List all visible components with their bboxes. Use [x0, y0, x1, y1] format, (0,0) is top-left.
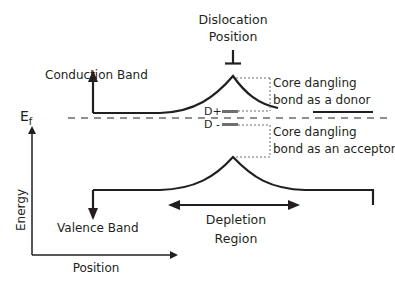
donor-bracket — [236, 78, 270, 111]
acceptor-bracket — [236, 125, 270, 157]
fermi-level-label: Ef — [20, 108, 33, 127]
donor-level-label: D+ — [204, 105, 222, 118]
acceptor-annotation-line1: Core dangling — [273, 125, 357, 139]
donor-annotation-line2: bond as a donor — [273, 93, 370, 107]
band-diagram: Dislocation Position Conduction Band Ef … — [0, 0, 395, 282]
dislocation-symbol-icon — [225, 50, 241, 64]
depletion-label-line2: Region — [215, 231, 258, 246]
acceptor-level-bar — [222, 123, 238, 126]
x-axis-label: Position — [73, 261, 120, 275]
depletion-label-line1: Depletion — [206, 212, 266, 227]
valence-band-label: Valence Band — [57, 221, 139, 235]
donor-annotation-line1: Core dangling — [273, 76, 357, 90]
acceptor-level-label: D - — [204, 118, 220, 131]
valence-band-curve — [93, 157, 373, 205]
y-axis-label: Energy — [14, 189, 28, 231]
dislocation-title-line1: Dislocation — [198, 12, 267, 27]
donor-level-bar — [222, 110, 238, 113]
conduction-band-label: Conduction Band — [45, 68, 148, 82]
acceptor-annotation-line2: bond as an acceptor — [273, 142, 395, 156]
dislocation-title-line2: Position — [209, 29, 258, 44]
